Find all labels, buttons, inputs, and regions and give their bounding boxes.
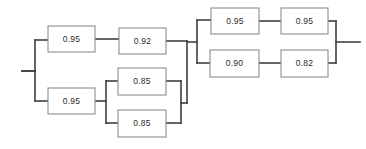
block-b1[interactable]: 0.95 (48, 26, 95, 52)
reliability-block-diagram: 0.950.920.950.850.850.950.950.900.82 (0, 0, 366, 149)
block-reliability-label: 0.85 (133, 76, 150, 86)
block-reliability-label: 0.95 (63, 96, 80, 106)
block-b9[interactable]: 0.82 (281, 50, 328, 77)
block-reliability-label: 0.95 (226, 16, 243, 26)
block-reliability-label: 0.90 (226, 58, 243, 68)
block-reliability-label: 0.92 (134, 36, 151, 46)
block-reliability-label: 0.82 (296, 58, 313, 68)
block-b3[interactable]: 0.95 (48, 88, 95, 114)
block-b4[interactable]: 0.85 (118, 68, 166, 95)
block-reliability-label: 0.85 (133, 118, 150, 128)
diagram-canvas: 0.950.920.950.850.850.950.950.900.82 (0, 0, 366, 149)
block-b8[interactable]: 0.90 (210, 50, 259, 77)
block-b7[interactable]: 0.95 (281, 8, 328, 34)
blocks-layer: 0.950.920.950.850.850.950.950.900.82 (48, 8, 328, 137)
block-reliability-label: 0.95 (63, 34, 80, 44)
block-b6[interactable]: 0.95 (211, 8, 259, 34)
block-b5[interactable]: 0.85 (118, 110, 166, 137)
block-b2[interactable]: 0.92 (119, 28, 166, 54)
block-reliability-label: 0.95 (296, 16, 313, 26)
